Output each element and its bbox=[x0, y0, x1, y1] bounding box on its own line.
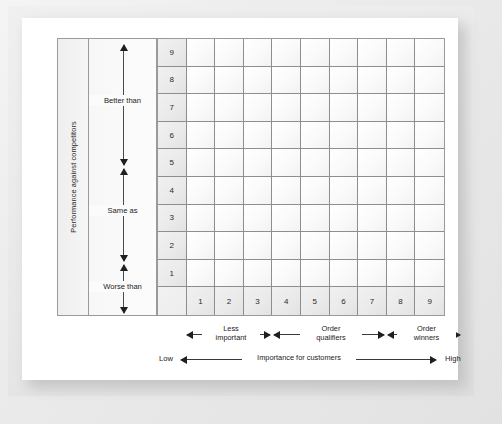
arrowhead-left-icon bbox=[186, 331, 193, 339]
grid-cell-r6-c9 bbox=[415, 205, 444, 233]
col-header-3: 3 bbox=[244, 287, 273, 315]
grid-cell-r8-c8 bbox=[387, 260, 416, 288]
grid-cell-r8-c9 bbox=[415, 260, 444, 288]
band-label-less-important: Less important bbox=[202, 325, 260, 342]
grid-cell-r1-c4 bbox=[272, 67, 301, 95]
grid-cell-r2-c3 bbox=[244, 94, 273, 122]
grid-cell-r5-c8 bbox=[387, 177, 416, 205]
grid-cell-r6-c5 bbox=[301, 205, 330, 233]
grid-cell-r2-c6 bbox=[330, 94, 359, 122]
grid-cell-r5-c2 bbox=[215, 177, 244, 205]
row-header-9: 9 bbox=[158, 39, 187, 67]
axis-label-high: High bbox=[445, 354, 461, 363]
arrowhead-up-icon bbox=[120, 264, 128, 271]
grid-cell-r3-c2 bbox=[215, 122, 244, 150]
grid-cell-r4-c8 bbox=[387, 149, 416, 177]
grid-cell-r4-c2 bbox=[215, 149, 244, 177]
grid-cell-r6-c1 bbox=[187, 205, 216, 233]
grid-cell-r0-c8 bbox=[387, 39, 416, 67]
grid-cell-r5-c5 bbox=[301, 177, 330, 205]
grid-cell-r8-c5 bbox=[301, 260, 330, 288]
grid-cell-r3-c6 bbox=[330, 122, 359, 150]
band-label-line2: important bbox=[216, 333, 247, 342]
grid-cell-r6-c8 bbox=[387, 205, 416, 233]
grid-cell-r1-c3 bbox=[244, 67, 273, 95]
grid-cell-r0-c3 bbox=[244, 39, 273, 67]
arrowhead-left-icon bbox=[273, 331, 280, 339]
grid-cell-r4-c7 bbox=[358, 149, 387, 177]
grid-cell-r8-c6 bbox=[330, 260, 359, 288]
grid-cell-r8-c1 bbox=[187, 260, 216, 288]
grid-cell-r0-c9 bbox=[415, 39, 444, 67]
grid-cell-r4-c6 bbox=[330, 149, 359, 177]
col-header-9: 9 bbox=[415, 287, 444, 315]
grid-cell-r5-c4 bbox=[272, 177, 301, 205]
grid-cell-r4-c5 bbox=[301, 149, 330, 177]
band-label-better-than: Better than bbox=[89, 95, 156, 106]
grid-cell-r3-c9 bbox=[415, 122, 444, 150]
importance-performance-grid: 987654321123456789 bbox=[157, 38, 445, 316]
arrowhead-down-icon bbox=[120, 159, 128, 166]
grid-cell-r5-c7 bbox=[358, 177, 387, 205]
band-label-worse-than: Worse than bbox=[89, 281, 156, 292]
band-label-line2: winners bbox=[414, 333, 439, 342]
grid-cell-r2-c7 bbox=[358, 94, 387, 122]
col-header-5: 5 bbox=[301, 287, 330, 315]
arrowhead-up-icon bbox=[120, 44, 128, 51]
grid-cell-r0-c7 bbox=[358, 39, 387, 67]
col-header-7: 7 bbox=[358, 287, 387, 315]
grid-cell-r0-c6 bbox=[330, 39, 359, 67]
grid-cell-r7-c6 bbox=[330, 232, 359, 260]
importance-axis: Less important Order qualifiers Order wi… bbox=[157, 318, 457, 378]
band-label-line2: qualifiers bbox=[316, 333, 346, 342]
importance-axis-title: Importance for customers bbox=[242, 354, 356, 363]
grid-cell-r6-c2 bbox=[215, 205, 244, 233]
grid-cell-r4-c1 bbox=[187, 149, 216, 177]
grid-cell-r2-c5 bbox=[301, 94, 330, 122]
band-label-order-winners: Order winners bbox=[397, 325, 456, 342]
row-header-2: 2 bbox=[158, 232, 187, 260]
grid-cell-r1-c7 bbox=[358, 67, 387, 95]
grid-cell-r1-c9 bbox=[415, 67, 444, 95]
arrowhead-left-icon bbox=[180, 356, 187, 364]
grid-cell-r7-c4 bbox=[272, 232, 301, 260]
grid-cell-r6-c6 bbox=[330, 205, 359, 233]
grid-cell-r1-c5 bbox=[301, 67, 330, 95]
figure-card: Performance against competitors Better t… bbox=[22, 18, 458, 380]
performance-axis-title-cell: Performance against competitors bbox=[58, 39, 89, 315]
grid-cell-r5-c6 bbox=[330, 177, 359, 205]
grid-cell-r1-c2 bbox=[215, 67, 244, 95]
col-header-4: 4 bbox=[272, 287, 301, 315]
performance-axis-panel: Performance against competitors Better t… bbox=[57, 38, 157, 316]
arrowhead-up-icon bbox=[120, 168, 128, 175]
row-header-1: 1 bbox=[158, 260, 187, 288]
grid-cell-r7-c9 bbox=[415, 232, 444, 260]
col-header-6: 6 bbox=[330, 287, 359, 315]
grid-cell-r5-c1 bbox=[187, 177, 216, 205]
arrowhead-left-icon bbox=[387, 331, 394, 339]
arrowhead-right-icon bbox=[264, 331, 271, 339]
arrowhead-right-icon bbox=[430, 356, 437, 364]
col-header-1: 1 bbox=[187, 287, 216, 315]
row-header-8: 8 bbox=[158, 67, 187, 95]
grid-cell-r1-c1 bbox=[187, 67, 216, 95]
grid-cell-r7-c7 bbox=[358, 232, 387, 260]
grid-cell-r3-c3 bbox=[244, 122, 273, 150]
performance-axis-title: Performance against competitors bbox=[69, 121, 78, 233]
grid-cell-r7-c2 bbox=[215, 232, 244, 260]
grid-cell-r3-c4 bbox=[272, 122, 301, 150]
grid-cell-r0-c5 bbox=[301, 39, 330, 67]
grid-cell-r6-c7 bbox=[358, 205, 387, 233]
band-label-order-qualifiers: Order qualifiers bbox=[300, 325, 362, 342]
grid-cell-r2-c4 bbox=[272, 94, 301, 122]
arrowhead-down-icon bbox=[120, 307, 128, 314]
grid-cell-r2-c8 bbox=[387, 94, 416, 122]
grid-cell-r5-c3 bbox=[244, 177, 273, 205]
grid-cell-r0-c4 bbox=[272, 39, 301, 67]
grid-cell-r2-c9 bbox=[415, 94, 444, 122]
grid-cell-r3-c8 bbox=[387, 122, 416, 150]
grid-cell-r4-c3 bbox=[244, 149, 273, 177]
grid-cell-r0-c2 bbox=[215, 39, 244, 67]
grid-cell-r0-c1 bbox=[187, 39, 216, 67]
grid-cell-r7-c1 bbox=[187, 232, 216, 260]
